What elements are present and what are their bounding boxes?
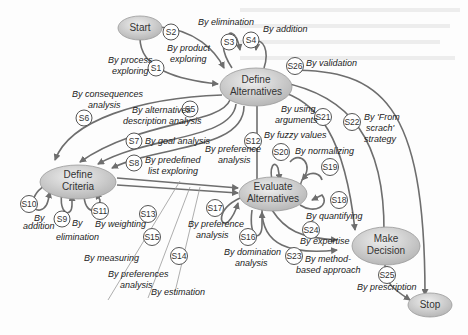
svg-text:Alternatives: Alternatives bbox=[247, 193, 299, 204]
strategy-s7: S7 bbox=[126, 133, 142, 149]
svg-text:S23: S23 bbox=[286, 251, 301, 261]
svg-text:Define: Define bbox=[64, 169, 93, 180]
strategy-s11: S11 bbox=[92, 203, 109, 220]
svg-text:addition: addition bbox=[23, 221, 55, 231]
svg-text:By estimation: By estimation bbox=[151, 287, 205, 297]
strategy-s16: S16 bbox=[240, 229, 257, 246]
svg-text:By preference: By preference bbox=[205, 144, 261, 154]
strategy-s9: S9 bbox=[54, 211, 70, 227]
svg-text:By elimination: By elimination bbox=[198, 17, 254, 27]
svg-text:By product: By product bbox=[167, 43, 211, 53]
strategy-s17: S17 bbox=[207, 200, 224, 217]
node-make-decision: Make Decision bbox=[352, 227, 420, 265]
svg-text:By 'From: By 'From bbox=[364, 112, 400, 122]
node-define-criteria: Define Criteria bbox=[40, 165, 116, 199]
svg-text:By goal analysis: By goal analysis bbox=[145, 136, 211, 146]
svg-text:S20: S20 bbox=[273, 147, 288, 157]
svg-text:S2: S2 bbox=[166, 27, 177, 37]
svg-text:analysis: analysis bbox=[235, 258, 268, 268]
svg-text:By expertise: By expertise bbox=[300, 236, 350, 246]
strategy-s6: S6 bbox=[76, 110, 92, 126]
strategy-s15: S15 bbox=[144, 229, 161, 246]
svg-text:Make: Make bbox=[374, 233, 399, 244]
svg-text:By: By bbox=[72, 218, 83, 228]
node-evaluate-alternatives: Evaluate Alternatives bbox=[239, 177, 307, 211]
svg-text:By preference: By preference bbox=[188, 219, 244, 229]
svg-text:analysis: analysis bbox=[218, 155, 251, 165]
svg-text:analysis: analysis bbox=[88, 100, 121, 110]
svg-text:S4: S4 bbox=[246, 35, 257, 45]
svg-text:By process: By process bbox=[108, 55, 153, 65]
svg-text:Stop: Stop bbox=[420, 299, 441, 310]
svg-text:S7: S7 bbox=[129, 136, 140, 146]
strategy-s19: S19 bbox=[322, 159, 339, 176]
svg-text:S6: S6 bbox=[79, 113, 90, 123]
svg-text:By normalizing: By normalizing bbox=[295, 146, 354, 156]
svg-text:arguments: arguments bbox=[275, 115, 318, 125]
svg-text:S18: S18 bbox=[331, 195, 346, 205]
svg-text:analysis: analysis bbox=[120, 280, 153, 290]
svg-text:Evaluate: Evaluate bbox=[254, 181, 293, 192]
svg-text:S14: S14 bbox=[171, 251, 186, 261]
strategy-s25: S25 bbox=[379, 267, 396, 284]
process-map-diagram: Start Define Alternatives Define Criteri… bbox=[0, 0, 468, 335]
svg-text:based approach: based approach bbox=[296, 265, 361, 275]
svg-text:description analysis: description analysis bbox=[123, 116, 202, 126]
svg-text:Criteria: Criteria bbox=[62, 181, 95, 192]
svg-text:By domination: By domination bbox=[224, 247, 281, 257]
svg-text:By alternatives: By alternatives bbox=[132, 105, 192, 115]
svg-text:S17: S17 bbox=[207, 203, 222, 213]
svg-text:Start: Start bbox=[129, 22, 150, 33]
svg-text:By validation: By validation bbox=[306, 58, 357, 68]
svg-text:S16: S16 bbox=[240, 232, 255, 242]
svg-text:scrach': scrach' bbox=[366, 123, 395, 133]
strategy-s23: S23 bbox=[286, 248, 303, 265]
strategy-s4: S4 bbox=[243, 32, 259, 48]
strategy-s3: S3 bbox=[221, 34, 237, 50]
node-start: Start bbox=[118, 16, 162, 40]
strategy-s14: S14 bbox=[171, 248, 188, 265]
svg-text:Alternatives: Alternatives bbox=[230, 86, 282, 97]
svg-text:S9: S9 bbox=[57, 214, 68, 224]
svg-text:By weighting: By weighting bbox=[95, 219, 146, 229]
strategy-s26: S26 bbox=[287, 58, 304, 75]
svg-text:S11: S11 bbox=[93, 206, 108, 216]
strategy-s8: S8 bbox=[126, 155, 142, 171]
svg-text:elimination: elimination bbox=[56, 232, 99, 242]
svg-text:Decision: Decision bbox=[367, 245, 405, 256]
svg-text:By using: By using bbox=[281, 104, 316, 114]
svg-text:By method-: By method- bbox=[305, 254, 351, 264]
node-define-alternatives: Define Alternatives bbox=[220, 68, 292, 106]
svg-text:By fuzzy values: By fuzzy values bbox=[264, 130, 327, 140]
strategy-s2: S2 bbox=[163, 24, 179, 40]
svg-text:S19: S19 bbox=[322, 162, 337, 172]
svg-text:S22: S22 bbox=[344, 117, 359, 127]
svg-text:By consequences: By consequences bbox=[72, 89, 144, 99]
strategy-s20: S20 bbox=[273, 144, 290, 161]
svg-text:exploring: exploring bbox=[170, 54, 207, 64]
background-texture bbox=[240, 8, 460, 60]
svg-text:exploring: exploring bbox=[112, 66, 149, 76]
svg-text:By predefined: By predefined bbox=[145, 155, 202, 165]
svg-text:By measuring: By measuring bbox=[84, 253, 139, 263]
svg-text:S26: S26 bbox=[287, 61, 302, 71]
svg-text:S15: S15 bbox=[144, 232, 159, 242]
svg-text:strategy: strategy bbox=[364, 134, 397, 144]
svg-text:S8: S8 bbox=[129, 158, 140, 168]
strategy-s10: S10 bbox=[21, 196, 38, 213]
svg-text:By preferences: By preferences bbox=[108, 269, 169, 279]
svg-text:S25: S25 bbox=[379, 270, 394, 280]
node-stop: Stop bbox=[408, 293, 452, 317]
svg-text:By prescription: By prescription bbox=[357, 282, 417, 292]
svg-text:S13: S13 bbox=[140, 209, 155, 219]
svg-text:S21: S21 bbox=[315, 112, 330, 122]
svg-text:S10: S10 bbox=[21, 199, 36, 209]
svg-text:S24: S24 bbox=[303, 225, 318, 235]
svg-text:list exploring: list exploring bbox=[148, 166, 198, 176]
strategy-s22: S22 bbox=[344, 114, 361, 131]
svg-text:By quantifying: By quantifying bbox=[306, 211, 363, 221]
strategy-s18: S18 bbox=[331, 192, 348, 209]
svg-text:By addition: By addition bbox=[263, 24, 308, 34]
svg-text:S3: S3 bbox=[224, 37, 235, 47]
svg-text:analysis: analysis bbox=[196, 230, 229, 240]
